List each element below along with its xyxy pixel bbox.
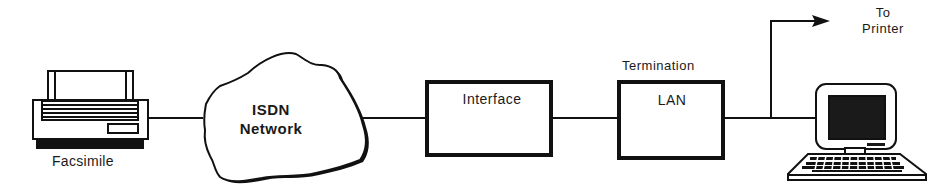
printer-label-line1: To xyxy=(848,5,918,21)
isdn-label-line1: ISDN xyxy=(228,100,314,119)
printer-label-line2: Printer xyxy=(848,21,918,37)
to-printer-label: To Printer xyxy=(848,5,918,37)
fax-machine-icon xyxy=(33,71,148,148)
isdn-network-label: ISDN Network xyxy=(228,100,314,138)
termination-label: Termination xyxy=(622,58,695,73)
facsimile-label: Facsimile xyxy=(52,153,114,169)
isdn-label-line2: Network xyxy=(228,119,314,138)
lan-label: LAN xyxy=(620,92,724,108)
computer-icon xyxy=(788,84,926,180)
interface-label: Interface xyxy=(428,91,556,107)
